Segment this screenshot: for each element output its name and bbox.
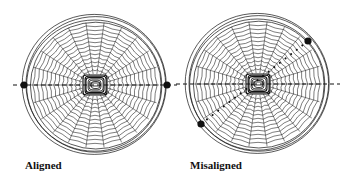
aligned-fiber-disc <box>22 14 166 154</box>
misaligned-marker-dot-0 <box>304 37 311 44</box>
misaligned-panel <box>176 13 340 153</box>
aligned-marker-dot-1 <box>163 81 170 88</box>
misaligned-marker-dot-1 <box>197 120 204 127</box>
aligned-panel <box>13 14 177 154</box>
aligned-marker-dot-0 <box>20 81 27 88</box>
fiber-alignment-diagram <box>0 0 344 176</box>
aligned-label: Aligned <box>25 160 62 171</box>
misaligned-label: Misaligned <box>190 160 242 171</box>
misaligned-fiber-disc <box>185 13 329 153</box>
